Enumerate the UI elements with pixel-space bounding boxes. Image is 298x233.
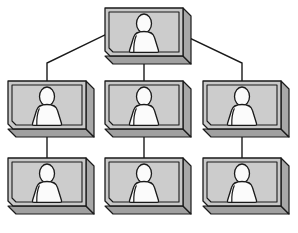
center-mid-node[interactable] bbox=[105, 81, 191, 137]
person-silhouette-icon bbox=[8, 158, 94, 214]
right-mid-node[interactable] bbox=[203, 81, 289, 137]
org-chart-svg bbox=[0, 0, 298, 233]
person-silhouette-icon bbox=[105, 81, 191, 137]
connector-root-to-left bbox=[47, 35, 105, 81]
center-leaf-node[interactable] bbox=[105, 158, 191, 214]
org-chart-canvas: Organization Hierarchy Chart bbox=[0, 0, 298, 233]
left-mid-node[interactable] bbox=[8, 81, 94, 137]
person-silhouette-icon bbox=[203, 158, 289, 214]
person-silhouette-icon bbox=[8, 81, 94, 137]
person-silhouette-icon bbox=[105, 158, 191, 214]
person-silhouette-icon bbox=[203, 81, 289, 137]
root-node[interactable] bbox=[105, 8, 191, 64]
left-leaf-node[interactable] bbox=[8, 158, 94, 214]
right-leaf-node[interactable] bbox=[203, 158, 289, 214]
person-silhouette-icon bbox=[105, 8, 191, 64]
connector-root-to-right bbox=[183, 35, 242, 81]
